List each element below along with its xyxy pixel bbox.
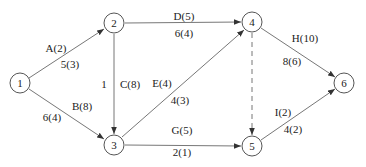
node-3: 3 (104, 135, 124, 155)
edge-label-i-values: 4(2) (284, 123, 303, 136)
edge-label-c-values: 1 (101, 78, 107, 90)
svg-text:5: 5 (249, 140, 255, 152)
node-5: 5 (242, 136, 262, 156)
svg-text:1: 1 (17, 77, 23, 89)
edge-label-e-activity: E(4) (152, 77, 172, 90)
edge-label-g-values: 2(1) (173, 146, 192, 159)
edge-label-e-values: 4(3) (171, 94, 190, 107)
edge-label-d-values: 6(4) (175, 27, 194, 40)
network-diagram: A(2) 5(3) B(8) 6(4) C(8) 1 D(5) 6(4) E(4… (0, 0, 366, 167)
edge-label-c-activity: C(8) (120, 78, 141, 91)
edge-3-4 (122, 30, 244, 137)
edge-2-4 (125, 22, 241, 23)
edge-label-h-values: 8(6) (283, 55, 302, 68)
svg-text:4: 4 (249, 16, 255, 28)
edge-label-i-activity: I(2) (275, 106, 292, 119)
edge-label-h-activity: H(10) (292, 32, 319, 45)
edge-label-d-activity: D(5) (174, 10, 195, 23)
node-6: 6 (334, 73, 354, 93)
svg-text:6: 6 (341, 77, 347, 89)
node-2: 2 (104, 13, 124, 33)
node-4: 4 (242, 12, 262, 32)
edge-1-2 (29, 29, 104, 78)
edge-label-a-values: 5(3) (61, 58, 80, 71)
svg-text:2: 2 (111, 17, 117, 29)
svg-text:3: 3 (111, 139, 117, 151)
edge-1-3 (29, 89, 104, 139)
edge-label-a-activity: A(2) (46, 42, 67, 55)
edge-label-b-values: 6(4) (43, 111, 62, 124)
edge-label-b-activity: B(8) (72, 100, 93, 113)
node-1: 1 (10, 73, 30, 93)
edge-label-g-activity: G(5) (172, 124, 193, 137)
